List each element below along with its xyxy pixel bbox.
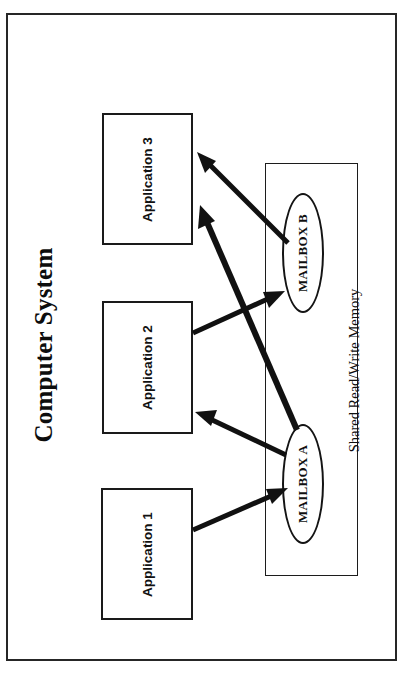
mailbox-a-node: MAILBOX A [282,424,324,544]
application-2-label: Application 2 [140,325,155,410]
mailbox-a-label: MAILBOX A [295,445,311,523]
figure-root: Computer System Shared Read/Write Memory… [0,0,410,690]
application-1-box: Application 1 [101,488,193,620]
application-3-box: Application 3 [102,113,193,245]
application-2-box: Application 2 [102,301,193,434]
application-1-label: Application 1 [139,512,154,597]
application-3-label: Application 3 [140,137,155,222]
mailbox-b-label: MAILBOX B [295,214,311,292]
mailbox-b-node: MAILBOX B [282,193,324,313]
